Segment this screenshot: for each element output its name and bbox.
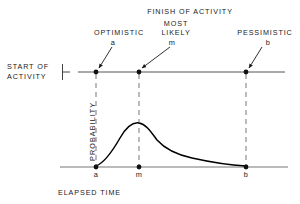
event-dot-b-axis [244,165,249,170]
label-elapsed-time-axis: ELAPSED TIME [58,188,121,197]
label-start-of-activity-line1: START OF [7,62,49,71]
label-most-likely-line1: MOST [164,19,188,28]
symbol-a: a [111,39,115,47]
probability-density-curve [96,123,246,166]
label-probability-axis: PROBABILITY [88,102,97,161]
label-optimistic: OPTIMISTIC [94,28,144,37]
arrow-b [249,47,262,68]
tick-label-m: m [136,171,142,179]
event-dot-m-axis [137,165,142,170]
tick-label-a: a [94,171,98,179]
event-dot-b-top [244,70,249,75]
tick-label-b: b [244,171,248,179]
label-most-likely-line2: LIKELY [161,28,190,37]
symbol-b: b [266,39,270,47]
label-pessimistic: PESSIMISTIC [237,28,292,37]
event-dot-a-axis [94,165,99,170]
arrow-m [142,47,170,68]
event-dot-m-top [137,70,142,75]
event-dot-a-top [94,70,99,75]
figure-title: FINISH OF ACTIVITY [147,7,233,16]
arrow-a [99,47,112,68]
symbol-m: m [169,39,175,47]
label-start-of-activity-line2: ACTIVITY [7,72,47,81]
pert-three-time-estimate-figure: FINISH OF ACTIVITY OPTIMISTIC a MOST LIK… [0,0,300,204]
